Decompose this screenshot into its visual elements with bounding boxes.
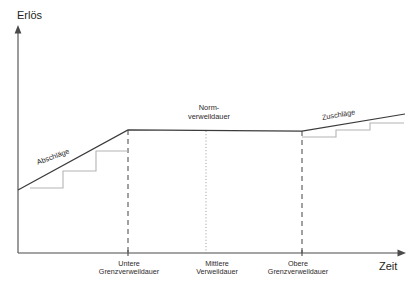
y-axis-label: Erlös bbox=[17, 9, 42, 22]
x-tick-label-obere-grenzverweildauer: Obere Grenzverweildauer bbox=[253, 260, 343, 277]
x-axis-arrow-icon bbox=[398, 250, 407, 257]
x-tick-label-mittlere-line2: Verweildauer bbox=[172, 268, 262, 276]
region-label-normverweildauer-line2: verweildauer bbox=[173, 113, 245, 122]
x-tick-label-obere-line2: Grenzverweildauer bbox=[253, 268, 343, 276]
x-axis-label: Zeit bbox=[379, 260, 397, 273]
x-tick-label-mittlere-verweildauer: Mittlere Verweildauer bbox=[172, 260, 262, 277]
dRG-verweildauer-diagram: Erlös Zeit Untere Grenzverweildauer Mitt… bbox=[0, 0, 415, 287]
x-tick-label-untere-grenzverweildauer: Untere Grenzverweildauer bbox=[84, 260, 174, 277]
diagram-canvas bbox=[0, 0, 415, 287]
y-axis-arrow-icon bbox=[15, 25, 22, 34]
revenue-curve bbox=[18, 114, 405, 190]
region-label-normverweildauer: Norm- verweildauer bbox=[173, 104, 245, 121]
step-line-zuschlaege bbox=[302, 123, 404, 137]
x-tick-label-untere-line2: Grenzverweildauer bbox=[84, 268, 174, 276]
